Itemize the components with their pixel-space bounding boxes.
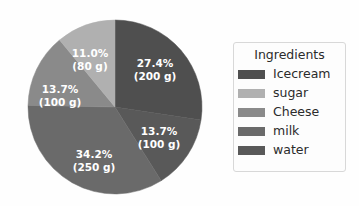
legend-item-label: water (273, 144, 309, 157)
pie-chart-figure: 27.4%(200 g)13.7%(100 g)34.2%(250 g)13.7… (0, 0, 359, 206)
legend-title: Ingredients (234, 47, 345, 62)
legend-item-label: sugar (273, 87, 308, 100)
legend-item-icecream[interactable]: Icecream (234, 65, 345, 84)
pie-label-percent-water: 13.7% (141, 125, 178, 137)
pie-label-percent-sugar: 11.0% (72, 47, 109, 59)
legend-item-milk[interactable]: milk (234, 122, 345, 141)
pie-label-amount-milk: (250 g) (73, 161, 116, 173)
legend-item-sugar[interactable]: sugar (234, 84, 345, 103)
pie-label-percent-icecream: 27.4% (137, 57, 174, 69)
legend-items: IcecreamsugarCheesemilkwater (234, 65, 345, 160)
pie-label-percent-milk: 34.2% (76, 148, 113, 160)
legend-item-label: Icecream (273, 68, 331, 81)
legend-item-label: milk (273, 125, 299, 138)
legend-swatch-icon (238, 146, 265, 155)
legend-item-cheese[interactable]: Cheese (234, 103, 345, 122)
pie-label-percent-cheese: 13.7% (42, 83, 79, 95)
legend-swatch-icon (238, 89, 265, 98)
legend-swatch-icon (238, 70, 265, 79)
pie-svg: 27.4%(200 g)13.7%(100 g)34.2%(250 g)13.7… (0, 0, 232, 206)
pie-label-amount-water: (100 g) (138, 138, 181, 150)
pie-label-amount-icecream: (200 g) (134, 70, 177, 82)
pie-plot-area: 27.4%(200 g)13.7%(100 g)34.2%(250 g)13.7… (0, 0, 232, 206)
legend-item-label: Cheese (273, 106, 319, 119)
pie-label-amount-cheese: (100 g) (39, 96, 82, 108)
legend-swatch-icon (238, 127, 265, 136)
legend: Ingredients IcecreamsugarCheesemilkwater (233, 42, 346, 172)
legend-item-water[interactable]: water (234, 141, 345, 160)
pie-label-amount-sugar: (80 g) (72, 60, 107, 72)
legend-swatch-icon (238, 108, 265, 117)
